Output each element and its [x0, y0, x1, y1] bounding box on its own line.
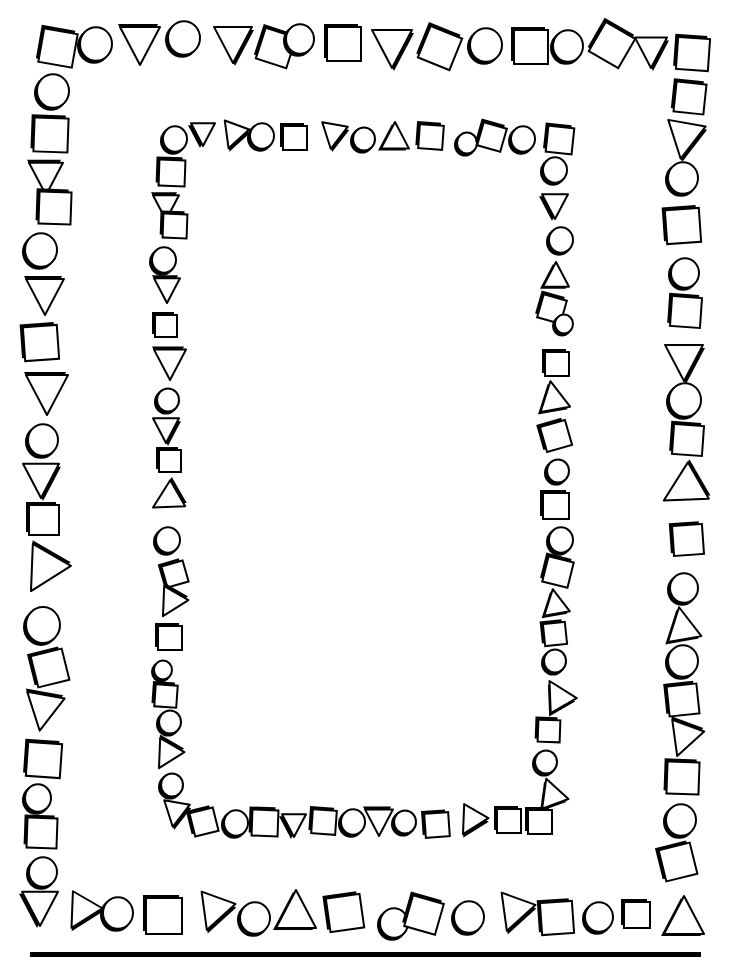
circle-shape-icon [153, 527, 180, 555]
square-shape-icon [249, 806, 279, 836]
square-shape-icon [586, 18, 637, 69]
circle-shape-icon [663, 804, 696, 839]
outer-shape-border [10, 18, 711, 941]
triangle-left-shape-icon [317, 122, 349, 154]
inner-shape-border [145, 118, 578, 844]
circle-shape-icon [154, 388, 179, 414]
square-shape-icon [152, 312, 177, 337]
square-shape-icon [143, 895, 182, 934]
square-shape-icon [511, 27, 548, 64]
triangle-up-shape-icon [540, 262, 569, 289]
circle-shape-icon [582, 902, 613, 935]
circle-shape-icon [668, 258, 699, 291]
triangle-right-shape-icon [145, 734, 186, 775]
triangle-down-shape-icon [279, 814, 306, 839]
triangle-right-shape-icon [363, 806, 393, 836]
triangle-right-shape-icon [149, 582, 190, 623]
triangle-left-shape-icon [489, 893, 537, 941]
triangle-left-shape-icon [449, 804, 490, 845]
square-shape-icon [669, 421, 704, 456]
square-shape-icon [621, 899, 650, 928]
triangle-right-shape-icon [659, 716, 705, 761]
square-shape-icon [324, 24, 361, 61]
square-shape-icon [156, 156, 186, 186]
square-shape-icon [421, 809, 450, 838]
square-shape-icon [542, 349, 569, 376]
square-shape-icon [536, 417, 572, 453]
triangle-right-shape-icon [19, 689, 65, 734]
square-shape-icon [23, 814, 57, 848]
square-shape-icon [494, 806, 521, 833]
circle-shape-icon [237, 902, 270, 937]
border-artwork [0, 0, 733, 972]
triangle-left-shape-icon [214, 27, 254, 66]
circle-shape-icon [391, 810, 416, 836]
triangle-left-shape-icon [189, 892, 237, 940]
square-shape-icon [662, 205, 701, 244]
triangle-right-shape-icon [24, 372, 68, 415]
triangle-left-shape-icon [215, 121, 251, 157]
square-shape-icon [535, 717, 561, 743]
triangle-right-shape-icon [145, 477, 188, 520]
square-shape-icon [525, 807, 552, 834]
circle-shape-icon [508, 126, 535, 154]
square-shape-icon [30, 114, 68, 152]
triangle-right-shape-icon [652, 459, 711, 519]
circle-shape-icon [25, 424, 58, 459]
triangle-up-shape-icon [530, 774, 569, 811]
square-shape-icon [540, 619, 567, 646]
triangle-left-shape-icon [23, 464, 61, 501]
circle-shape-icon [377, 908, 408, 941]
square-shape-icon [322, 891, 364, 933]
circle-shape-icon [22, 233, 57, 270]
square-shape-icon [543, 122, 575, 154]
square-shape-icon [27, 646, 69, 688]
circle-shape-icon [149, 247, 176, 275]
square-shape-icon [280, 123, 307, 150]
square-shape-icon [156, 447, 181, 472]
square-shape-icon [151, 681, 178, 708]
circle-shape-icon [338, 809, 365, 837]
square-shape-icon [663, 758, 699, 794]
square-shape-icon [537, 898, 574, 935]
square-shape-icon [415, 121, 444, 150]
triangle-left-shape-icon [153, 418, 181, 446]
square-shape-icon [308, 806, 337, 835]
triangle-up-shape-icon [378, 122, 409, 151]
square-shape-icon [663, 681, 699, 717]
circle-shape-icon [77, 27, 112, 64]
triangle-down-shape-icon [188, 123, 215, 148]
circle-shape-icon [22, 784, 51, 814]
square-shape-icon [673, 34, 710, 71]
square-shape-icon [35, 188, 71, 224]
circle-shape-icon [541, 649, 566, 675]
triangle-left-shape-icon [372, 30, 414, 71]
bottom-rule-line [30, 952, 701, 957]
circle-shape-icon [467, 28, 502, 65]
square-shape-icon [23, 739, 62, 778]
circle-shape-icon [23, 607, 60, 646]
circle-shape-icon [544, 459, 569, 485]
triangle-up-shape-icon [533, 379, 571, 415]
square-shape-icon [667, 293, 702, 328]
square-shape-icon [160, 210, 188, 238]
triangle-left-shape-icon [635, 38, 669, 71]
circle-shape-icon [165, 21, 200, 58]
circle-shape-icon [247, 123, 274, 151]
circle-shape-icon [26, 857, 57, 890]
square-shape-icon [474, 118, 507, 151]
triangle-down-shape-icon [19, 892, 58, 928]
triangle-right-shape-icon [118, 24, 160, 65]
square-shape-icon [155, 623, 182, 650]
circle-shape-icon [221, 810, 248, 838]
circle-shape-icon [546, 527, 573, 555]
triangle-up-shape-icon [273, 890, 316, 930]
square-shape-icon [671, 78, 707, 114]
square-shape-icon [186, 805, 219, 838]
triangle-right-shape-icon [152, 347, 186, 380]
circle-shape-icon [540, 157, 567, 185]
circle-shape-icon [160, 126, 187, 154]
square-shape-icon [26, 502, 59, 535]
triangle-up-shape-icon [537, 587, 570, 618]
square-shape-icon [35, 25, 78, 68]
